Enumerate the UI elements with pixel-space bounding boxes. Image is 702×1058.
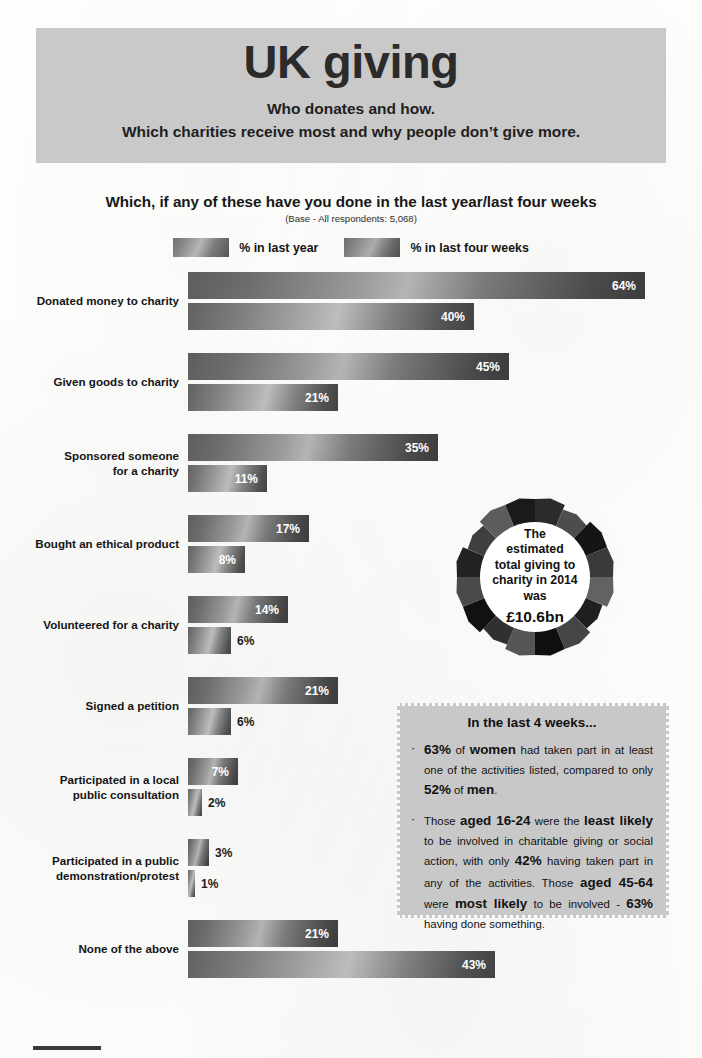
- legend-swatch-icon-last-year: [173, 238, 229, 257]
- bar-row: 17%: [188, 515, 702, 542]
- bar-row: 40%: [188, 303, 702, 330]
- bar-value-label: 11%: [235, 472, 267, 486]
- category-label: Signed a petition: [0, 698, 188, 713]
- header-banner: UK giving Who donates and how. Which cha…: [36, 28, 666, 163]
- bar[interactable]: 35%: [188, 434, 438, 461]
- bar[interactable]: [188, 789, 202, 816]
- bar[interactable]: 8%: [188, 546, 245, 573]
- bar-value-label: 6%: [231, 715, 254, 729]
- bar-value-label: 21%: [305, 927, 338, 941]
- bar[interactable]: 21%: [188, 384, 338, 411]
- callout-bullet-text: Those aged 16-24 were the least likely t…: [424, 810, 653, 934]
- bar-row: 43%: [188, 951, 702, 978]
- bar[interactable]: 7%: [188, 758, 238, 785]
- emphasis-text: aged 45-64: [580, 875, 653, 890]
- bar-value-label: 21%: [305, 684, 338, 698]
- bar-row: 8%: [188, 546, 702, 573]
- legend-label-last-year: % in last year: [239, 241, 318, 255]
- bar-row: 6%: [188, 627, 702, 654]
- donut-amount: £10.6bn: [476, 607, 594, 627]
- bar-value-label: 35%: [405, 441, 438, 455]
- bar-value-label: 21%: [305, 391, 338, 405]
- bar-value-label: 45%: [476, 360, 509, 374]
- category-label: Volunteered for a charity: [0, 617, 188, 632]
- callout-bullet: ·Those aged 16-24 were the least likely …: [411, 810, 653, 934]
- bar[interactable]: 21%: [188, 677, 338, 704]
- bar-pair: 64%40%: [188, 272, 702, 330]
- chart-group: Given goods to charity45%21%: [0, 353, 702, 411]
- callout-box: In the last 4 weeks... ·63% of women had…: [397, 703, 669, 918]
- category-label-line: Signed a petition: [0, 698, 179, 713]
- bar-pair: 35%11%: [188, 434, 702, 492]
- emphasis-text: women: [470, 742, 516, 757]
- bar-row: 11%: [188, 465, 702, 492]
- emphasis-text: most likely: [455, 896, 527, 911]
- bar-row: 45%: [188, 353, 702, 380]
- category-label-line: for a charity: [0, 463, 179, 478]
- body-text: Those: [424, 815, 460, 827]
- bar-value-label: 2%: [202, 796, 225, 810]
- body-text: of: [451, 744, 470, 756]
- donut-line-1: The: [524, 527, 546, 541]
- category-label: Given goods to charity: [0, 374, 188, 389]
- donut-line-2: estimated: [506, 543, 563, 557]
- callout-bullet: ·63% of women had taken part in at least…: [411, 739, 653, 801]
- category-label-line: Sponsored someone: [0, 448, 179, 463]
- total-giving-text: The estimated total giving to charity in…: [476, 527, 594, 627]
- bar-value-label: 8%: [219, 553, 245, 567]
- chart-group: Donated money to charity64%40%: [0, 272, 702, 330]
- bar[interactable]: [188, 839, 209, 866]
- page-subtitle: Who donates and how. Which charities rec…: [122, 98, 580, 144]
- bar[interactable]: [188, 708, 231, 735]
- category-label-line: Bought an ethical product: [0, 536, 179, 551]
- category-label: Sponsored someonefor a charity: [0, 448, 188, 479]
- bar-row: 14%: [188, 596, 702, 623]
- bar[interactable]: 40%: [188, 303, 474, 330]
- bar-row: 21%: [188, 677, 702, 704]
- category-label: Participated in a publicdemonstration/pr…: [0, 853, 188, 884]
- bar-row: 21%: [188, 384, 702, 411]
- category-label: Participated in a localpublic consultati…: [0, 772, 188, 803]
- bar[interactable]: 17%: [188, 515, 309, 542]
- body-text: to be involved -: [527, 898, 626, 910]
- donut-line-3: total giving to: [495, 558, 576, 572]
- bar-value-label: 40%: [441, 310, 474, 324]
- bar[interactable]: [188, 870, 195, 897]
- footer-rule: [33, 1046, 101, 1050]
- bar[interactable]: [188, 627, 231, 654]
- bar-pair: 14%6%: [188, 596, 702, 654]
- bar[interactable]: 14%: [188, 596, 288, 623]
- bar[interactable]: 45%: [188, 353, 509, 380]
- bullet-dot-icon: ·: [411, 739, 424, 801]
- bar-value-label: 3%: [209, 846, 232, 860]
- category-label-line: Participated in a public: [0, 853, 179, 868]
- chart-group: Sponsored someonefor a charity35%11%: [0, 434, 702, 492]
- body-text: .: [494, 784, 497, 796]
- category-label-line: demonstration/protest: [0, 868, 179, 883]
- emphasis-text: men: [467, 782, 495, 797]
- bar-value-label: 17%: [276, 522, 309, 536]
- callout-title: In the last 4 weeks...: [411, 715, 653, 730]
- bar[interactable]: 21%: [188, 920, 338, 947]
- category-label-line: None of the above: [0, 941, 179, 956]
- body-text: were: [424, 898, 455, 910]
- callout-bullet-text: 63% of women had taken part in at least …: [424, 739, 653, 801]
- bar[interactable]: 64%: [188, 272, 645, 299]
- legend-label-last-four-weeks: % in last four weeks: [410, 241, 528, 255]
- emphasis-text: aged 16-24: [460, 813, 530, 828]
- emphasis-text: 42%: [515, 853, 542, 868]
- emphasis-text: 52%: [424, 782, 451, 797]
- donut-line-5: was: [523, 589, 546, 603]
- chart-legend: % in last year % in last four weeks: [0, 238, 702, 257]
- body-text: having done something.: [424, 918, 545, 930]
- category-label: Bought an ethical product: [0, 536, 188, 551]
- subtitle-line-1: Who donates and how.: [122, 98, 580, 121]
- bar[interactable]: 11%: [188, 465, 267, 492]
- legend-item-last-four-weeks: % in last four weeks: [344, 238, 528, 257]
- callout-bullet-list: ·63% of women had taken part in at least…: [411, 739, 653, 934]
- category-label-line: Volunteered for a charity: [0, 617, 179, 632]
- bar-value-label: 64%: [612, 279, 645, 293]
- body-text: of: [451, 784, 467, 796]
- bar-pair: 17%8%: [188, 515, 702, 573]
- bar[interactable]: 43%: [188, 951, 495, 978]
